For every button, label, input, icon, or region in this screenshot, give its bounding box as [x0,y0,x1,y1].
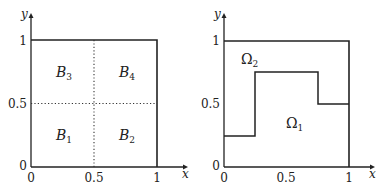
unit-square-border [31,40,157,167]
y-axis-label: y [20,7,28,21]
y-tick-0.5: 0.5 [8,97,27,111]
x-tick-0.5: 0.5 [276,171,295,185]
x-tick-0: 0 [220,171,228,185]
x-tick-0.5: 0.5 [84,171,103,185]
y-tick-1: 1 [19,34,27,48]
x-tick-1: 1 [153,171,161,185]
y-tick-0: 0 [212,159,220,173]
y-axis-arrow-icon [222,13,227,18]
region-B3: B3 [55,64,72,82]
right-plot: 0 0.5 1 0 0.5 1 x y Ω1 Ω2 [201,7,376,185]
region-B1: B1 [55,127,72,145]
region-B2: B2 [118,127,135,145]
y-tick-0.5: 0.5 [201,97,220,111]
region-omega-2: Ω2 [241,51,258,69]
y-axis-label: y [213,7,221,21]
region-omega-1: Ω1 [286,115,303,133]
region-B4: B4 [118,64,135,82]
left-plot: 0 0.5 1 0 0.5 1 x y B1 B2 B3 B4 [8,7,189,185]
y-tick-0: 0 [19,159,27,173]
x-axis-label: x [182,167,189,181]
x-tick-0: 0 [27,171,35,185]
y-tick-1: 1 [212,34,220,48]
y-axis-arrow-icon [29,13,34,18]
x-tick-1: 1 [345,171,353,185]
x-axis-label: x [369,167,376,181]
figure-canvas: 0 0.5 1 0 0.5 1 x y B1 B2 B3 B4 0 0.5 1 … [0,0,391,190]
